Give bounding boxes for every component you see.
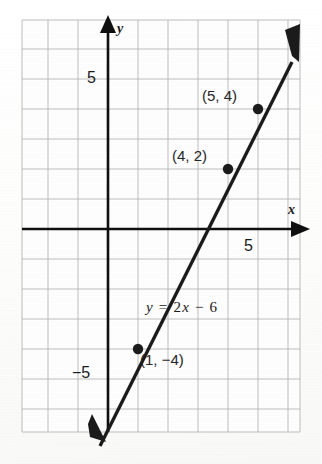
point-marker-5-4	[253, 104, 263, 114]
equation-coefficient: 2	[173, 299, 182, 315]
x-axis-arrowhead	[291, 221, 310, 237]
equation-lhs: y	[146, 299, 154, 315]
equation-minus: −	[195, 299, 205, 315]
coordinate-plane-svg	[0, 0, 322, 464]
y-axis-label: y	[117, 22, 123, 36]
point-marker-4-2	[223, 164, 233, 174]
point-label-5-4: (5, 4)	[202, 88, 237, 103]
point-label-4-2: (4, 2)	[172, 148, 207, 163]
y-axis-tick-minus-5: −5	[72, 365, 90, 381]
equation-constant: 6	[210, 299, 219, 315]
x-axis-label: x	[288, 203, 295, 217]
equation-label: y = 2x − 6	[146, 300, 218, 315]
point-label-1-neg4: (1, −4)	[140, 352, 184, 367]
x-axis-tick-5: 5	[244, 238, 253, 254]
equation-equals: =	[159, 299, 169, 315]
y-axis-tick-5: 5	[87, 70, 96, 86]
figure-canvas: y x 5 −5 5 (5, 4) (4, 2) (1, −4) y = 2x …	[0, 0, 322, 464]
equation-variable: x	[182, 299, 190, 315]
